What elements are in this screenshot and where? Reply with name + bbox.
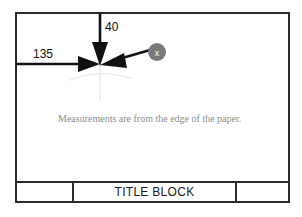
- title-block-cell-left[interactable]: [17, 183, 74, 201]
- measurement-note: Measurements are from the edge of the pa…: [58, 112, 243, 126]
- technical-drawing-canvas: x 135 40 Measurements are from the edge …: [0, 0, 302, 217]
- title-block-cell-center[interactable]: TITLE BLOCK: [74, 183, 237, 201]
- drawing-sheet-border: [15, 12, 290, 203]
- title-block-cell-right[interactable]: [237, 183, 288, 201]
- title-block: TITLE BLOCK: [15, 181, 290, 203]
- dimension-label-horizontal: 135: [33, 47, 53, 61]
- dimension-label-vertical: 40: [105, 20, 118, 34]
